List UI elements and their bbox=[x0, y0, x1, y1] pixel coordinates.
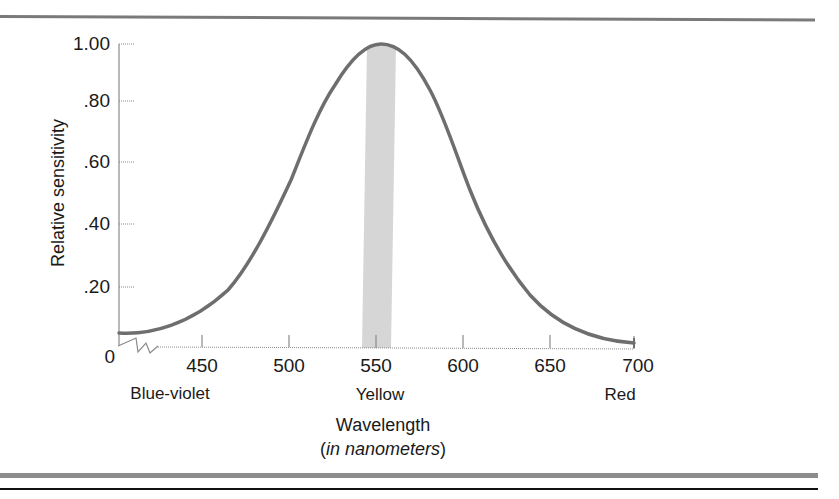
origin-label: 0 bbox=[45, 346, 115, 368]
axis-break-icon bbox=[118, 338, 158, 353]
x-axis-title: Wavelength bbox=[336, 415, 430, 436]
y-tick-label-.80: .80 bbox=[40, 90, 110, 112]
x-tick-label-650: 650 bbox=[520, 355, 580, 377]
y-tick-label-.20: .20 bbox=[40, 276, 110, 298]
x-ticks bbox=[202, 335, 634, 349]
y-axis-title: Relative sensitivity bbox=[48, 119, 69, 267]
x-axis-unit: (in nanometers) bbox=[320, 439, 446, 460]
paren-close: ) bbox=[440, 439, 446, 459]
category-blue-violet: Blue-violet bbox=[110, 384, 230, 404]
x-tick-label-550: 550 bbox=[346, 355, 406, 377]
category-red: Red bbox=[590, 385, 650, 405]
unit-text: in nanometers bbox=[326, 439, 440, 459]
x-axis bbox=[158, 347, 634, 349]
bottom-rule-black bbox=[0, 488, 818, 490]
x-tick-label-500: 500 bbox=[259, 355, 319, 377]
y-ticks bbox=[119, 44, 134, 287]
category-yellow: Yellow bbox=[335, 385, 425, 405]
yellow-band bbox=[362, 46, 396, 348]
bottom-rule-gray bbox=[0, 473, 818, 478]
x-tick-label-450: 450 bbox=[172, 355, 232, 377]
x-tick-label-700: 700 bbox=[608, 355, 668, 377]
x-tick-label-600: 600 bbox=[433, 355, 493, 377]
y-tick-label-1.00: 1.00 bbox=[40, 33, 110, 55]
